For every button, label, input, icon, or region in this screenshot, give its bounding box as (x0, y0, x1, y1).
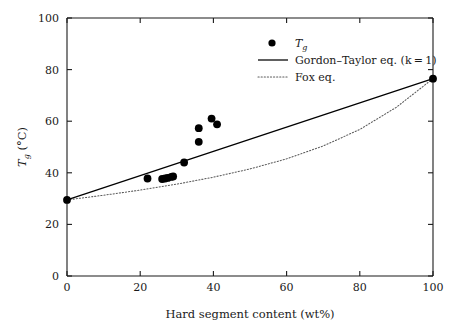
y-tick-label: 100 (38, 12, 59, 25)
y-tick-label: 60 (45, 115, 59, 128)
data-point (429, 75, 437, 83)
x-axis-title: Hard segment content (wt%) (165, 307, 334, 321)
x-tick-label: 80 (353, 281, 367, 294)
x-tick-label: 40 (206, 281, 220, 294)
data-point (195, 124, 203, 132)
data-point (213, 120, 221, 128)
x-tick-label: 20 (133, 281, 147, 294)
x-tick-label: 100 (423, 281, 444, 294)
legend-tg-subscript: g (302, 43, 307, 52)
scatter-plot: 020406080100 020406080100 Hard segment c… (0, 0, 470, 332)
y-tick-label: 80 (45, 64, 59, 77)
legend-label-gordon-taylor: Gordon–Taylor eq. (k = 1) (295, 54, 436, 67)
y-tick-label: 0 (52, 270, 59, 283)
data-point (63, 196, 71, 204)
data-point (144, 175, 152, 183)
legend-label-fox: Fox eq. (295, 71, 335, 84)
x-tick-label: 0 (64, 281, 71, 294)
y-axis-units-text: (°C) (15, 127, 29, 151)
legend-marker-icon (268, 39, 275, 46)
data-point (195, 138, 203, 146)
plot-background (0, 0, 470, 332)
x-tick-label: 60 (280, 281, 294, 294)
chart-figure: 020406080100 020406080100 Hard segment c… (0, 0, 470, 332)
y-tick-label: 20 (45, 218, 59, 231)
svg-text:Tg (°C): Tg (°C) (15, 127, 31, 167)
y-axis-title: Tg (°C) (15, 127, 31, 167)
data-point (208, 115, 216, 123)
y-tick-label: 40 (45, 167, 59, 180)
data-point (180, 159, 188, 167)
data-point (169, 173, 177, 181)
